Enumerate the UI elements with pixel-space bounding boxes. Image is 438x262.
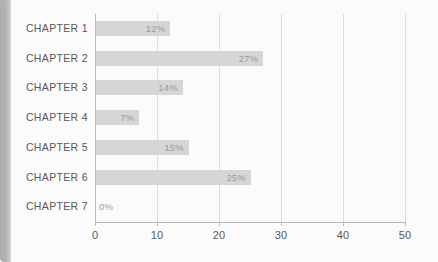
bar-row: CHAPTER 314% — [0, 73, 438, 103]
bar-value-3: 14% — [158, 80, 178, 95]
category-label-1: CHAPTER 1 — [0, 14, 88, 44]
bar-row: CHAPTER 47% — [0, 103, 438, 133]
bar-row: CHAPTER 625% — [0, 163, 438, 193]
bar-5[interactable]: 15% — [96, 140, 189, 155]
x-tick-20 — [219, 222, 220, 226]
bar-value-5: 15% — [164, 140, 184, 155]
bar-row: CHAPTER 112% — [0, 14, 438, 44]
x-tick-10 — [157, 222, 158, 226]
bar-value-4: 7% — [120, 110, 134, 125]
bar-value-2: 27% — [239, 51, 259, 66]
bar-row: CHAPTER 70% — [0, 192, 438, 222]
bar-row: CHAPTER 227% — [0, 44, 438, 74]
x-tick-label-0: 0 — [75, 229, 115, 241]
category-label-3: CHAPTER 3 — [0, 73, 88, 103]
x-tick-40 — [343, 222, 344, 226]
category-label-5: CHAPTER 5 — [0, 133, 88, 163]
bar-value-1: 12% — [146, 21, 166, 36]
bar-track-4: 7% — [95, 110, 405, 125]
bar-4[interactable]: 7% — [96, 110, 139, 125]
x-tick-label-20: 20 — [199, 229, 239, 241]
bar-3[interactable]: 14% — [96, 80, 183, 95]
bar-6[interactable]: 25% — [96, 170, 251, 185]
bar-value-7: 0% — [99, 199, 113, 214]
x-tick-50 — [405, 222, 406, 226]
category-label-4: CHAPTER 4 — [0, 103, 88, 133]
chart-screenshot: 01020304050 CHAPTER 112%CHAPTER 227%CHAP… — [0, 0, 438, 262]
bar-track-7: 0% — [95, 199, 405, 214]
bar-track-1: 12% — [95, 21, 405, 36]
bar-track-2: 27% — [95, 51, 405, 66]
bar-row: CHAPTER 515% — [0, 133, 438, 163]
bar-2[interactable]: 27% — [96, 51, 263, 66]
bar-1[interactable]: 12% — [96, 21, 170, 36]
x-axis-line — [95, 222, 406, 223]
x-tick-label-40: 40 — [323, 229, 363, 241]
x-tick-0 — [95, 222, 96, 226]
bar-value-6: 25% — [226, 170, 246, 185]
bar-track-6: 25% — [95, 170, 405, 185]
x-tick-label-50: 50 — [385, 229, 425, 241]
category-label-6: CHAPTER 6 — [0, 163, 88, 193]
category-label-2: CHAPTER 2 — [0, 44, 88, 74]
bar-track-5: 15% — [95, 140, 405, 155]
bar-track-3: 14% — [95, 80, 405, 95]
category-label-7: CHAPTER 7 — [0, 192, 88, 222]
x-tick-label-10: 10 — [137, 229, 177, 241]
x-tick-30 — [281, 222, 282, 226]
x-tick-label-30: 30 — [261, 229, 301, 241]
